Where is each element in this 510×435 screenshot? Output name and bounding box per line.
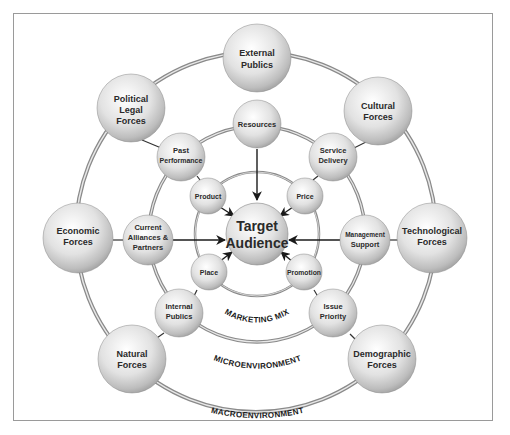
node-label: Delivery	[318, 156, 348, 165]
node-management-support: Management Support	[340, 215, 390, 265]
node-economic-forces: Economic Forces	[43, 203, 113, 273]
node-past-performance: Past Performance	[157, 133, 205, 181]
node-demographic-forces: Demographic Forces	[348, 325, 416, 393]
node-technological-forces: Technological Forces	[397, 203, 467, 273]
node-label: Publics	[166, 312, 193, 321]
node-product: Product	[190, 178, 226, 214]
node-label: Publics	[241, 60, 273, 70]
node-label: External	[239, 48, 275, 58]
node-label: Priority	[320, 312, 347, 321]
microenvironment-label: MICROENVIRONMENT	[213, 354, 303, 371]
node-label: Audience	[225, 235, 288, 251]
node-label: Partners	[133, 243, 163, 252]
node-external-publics: External Publics	[223, 24, 291, 92]
node-place: Place	[191, 254, 227, 290]
node-label: Product	[195, 193, 222, 200]
marketing-mix-label: MARKETING MIX	[223, 307, 291, 325]
node-price: Price	[287, 178, 323, 214]
node-label: Forces	[63, 237, 93, 247]
node-label: Forces	[116, 116, 146, 126]
node-label: Demographic	[353, 349, 411, 359]
node-label: Alliances &	[128, 233, 169, 242]
node-label: Target	[236, 218, 278, 234]
node-promotion: Promotion	[286, 254, 322, 290]
node-label: Natural	[116, 349, 147, 359]
node-label: Past	[173, 146, 189, 155]
node-label: Technological	[402, 226, 462, 236]
node-label: Service	[320, 146, 347, 155]
node-internal-publics: Internal Publics	[155, 289, 203, 337]
node-label: Issue	[323, 302, 342, 311]
marketing-environment-diagram: MARKETING MIX MICROENVIRONMENT MACROENVI…	[0, 0, 510, 435]
node-label: Internal	[165, 302, 192, 311]
node-issue-priority: Issue Priority	[309, 289, 357, 337]
node-current-alliances: Current Alliances & Partners	[123, 215, 173, 265]
node-natural-forces: Natural Forces	[98, 325, 166, 393]
node-label: Forces	[367, 360, 397, 370]
node-service-delivery: Service Delivery	[309, 133, 357, 181]
node-cultural-forces: Cultural Forces	[344, 77, 412, 145]
node-label: Current	[134, 223, 162, 232]
node-label: Political	[114, 94, 149, 104]
node-political-legal-forces: Political Legal Forces	[97, 74, 165, 142]
node-label: Forces	[363, 112, 393, 122]
node-label: Cultural	[361, 101, 395, 111]
node-label: Forces	[417, 237, 447, 247]
node-resources: Resources	[233, 100, 281, 148]
node-label: Economic	[56, 226, 99, 236]
node-target-audience: Target Audience	[225, 203, 288, 265]
node-label: Performance	[160, 157, 203, 164]
node-label: Management	[345, 231, 386, 239]
node-label: Support	[351, 240, 380, 249]
node-label: Promotion	[287, 269, 321, 276]
node-label: Place	[200, 269, 218, 276]
node-label: Legal	[119, 105, 143, 115]
node-label: Forces	[117, 360, 147, 370]
node-label: Price	[296, 193, 313, 200]
node-label: Resources	[238, 120, 276, 129]
